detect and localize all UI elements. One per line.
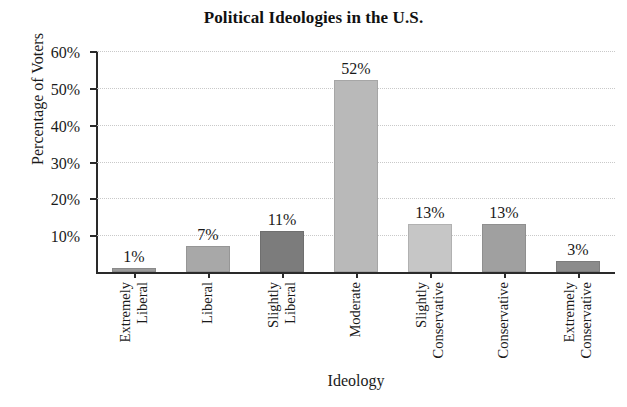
- bar-value-label: 52%: [341, 60, 370, 78]
- y-tick: 40%: [90, 125, 97, 127]
- bar-chart: Political Ideologies in the U.S. Percent…: [0, 0, 627, 407]
- gridline: [97, 51, 615, 52]
- x-category-label-line: Slightly: [414, 282, 429, 328]
- bar-value-label: 11%: [268, 211, 297, 229]
- bar: 13%: [408, 224, 452, 272]
- y-tick: 30%: [90, 162, 97, 164]
- y-tick-label: 40%: [51, 118, 80, 136]
- x-category-label-line: Slightly: [266, 282, 281, 328]
- x-tick: [208, 272, 210, 278]
- x-category-label: Liberal: [168, 282, 248, 324]
- x-category-label: SlightlyConservative: [390, 282, 470, 359]
- bar-value-label: 3%: [567, 241, 588, 259]
- x-category-label: Conservative: [464, 282, 544, 359]
- x-category-label-line: Extremely: [118, 282, 133, 342]
- y-tick-label: 20%: [51, 191, 80, 209]
- plot-area: 10%20%30%40%50%60% 1%7%11%52%13%13%3%: [97, 51, 615, 272]
- x-tick: [134, 272, 136, 278]
- y-tick: 60%: [90, 51, 97, 53]
- bar: 3%: [556, 261, 600, 272]
- x-tick: [356, 272, 358, 278]
- x-category-label: ExtremelyLiberal: [94, 282, 174, 342]
- bar-value-label: 13%: [489, 204, 518, 222]
- x-category-label-line: Liberal: [283, 282, 298, 324]
- x-tick: [430, 272, 432, 278]
- bar-value-label: 1%: [123, 248, 144, 266]
- chart-title: Political Ideologies in the U.S.: [0, 8, 627, 28]
- x-tick: [504, 272, 506, 278]
- y-tick-label: 60%: [51, 44, 80, 62]
- x-category-label-line: Conservative: [579, 282, 594, 359]
- y-tick: 20%: [90, 198, 97, 200]
- y-tick-label: 30%: [51, 155, 80, 173]
- y-tick: 10%: [90, 235, 97, 237]
- x-category-label-line: Extremely: [562, 282, 577, 342]
- x-category-label: SlightlyLiberal: [242, 282, 322, 328]
- bar: 13%: [482, 224, 526, 272]
- bar-value-label: 13%: [415, 204, 444, 222]
- y-tick-label: 50%: [51, 81, 80, 99]
- bar: 11%: [260, 231, 304, 272]
- x-tick: [282, 272, 284, 278]
- x-tick: [578, 272, 580, 278]
- x-category-label-line: Moderate: [348, 282, 363, 338]
- x-category-label-line: Liberal: [135, 282, 150, 324]
- y-axis-title: Percentage of Voters: [29, 0, 47, 199]
- bar: 1%: [112, 268, 156, 272]
- x-category-label-line: Liberal: [200, 282, 215, 324]
- x-category-label: ExtremelyConservative: [538, 282, 618, 359]
- x-category-label: Moderate: [316, 282, 396, 338]
- x-category-label-line: Conservative: [496, 282, 511, 359]
- bar-value-label: 7%: [197, 226, 218, 244]
- bar: 7%: [186, 246, 230, 272]
- y-tick-label: 10%: [51, 228, 80, 246]
- x-axis-title: Ideology: [97, 372, 615, 390]
- y-tick: 50%: [90, 88, 97, 90]
- bar: 52%: [334, 80, 378, 272]
- x-category-label-line: Conservative: [431, 282, 446, 359]
